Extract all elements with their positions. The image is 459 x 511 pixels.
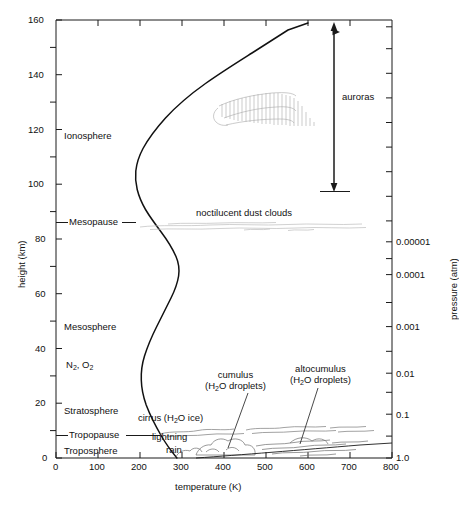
pressure-axis-major-ticks <box>386 242 392 458</box>
y-tick-100: 100 <box>28 178 44 189</box>
layer-label-tropopause: Tropopause <box>69 430 119 441</box>
x-tick-300: 300 <box>173 461 189 472</box>
noctilucent-dust-clouds-label: noctilucent dust clouds <box>196 208 292 219</box>
rain-label: rain <box>166 445 182 456</box>
y-tick-120: 120 <box>28 124 44 135</box>
altocumulus-cloud-sketch <box>256 438 368 456</box>
pressure-axis-minor-ticks <box>386 27 392 436</box>
temperature-profile-curve <box>136 23 308 458</box>
pressure-tick-1e-5: 0.00001 <box>396 236 430 247</box>
layer-label-troposphere: Troposphere <box>64 446 118 457</box>
lightning-label: lightning <box>152 432 187 443</box>
layer-label-mesopause: Mesopause <box>69 217 118 228</box>
x-tick-200: 200 <box>131 461 147 472</box>
x-tick-0: 0 <box>53 461 58 472</box>
y-tick-20: 20 <box>35 397 46 408</box>
surface-line <box>196 443 392 458</box>
x-tick-100: 100 <box>89 461 105 472</box>
y-axis-minor-ticks <box>50 47 56 430</box>
layer-label-gases: N2, O2 <box>66 360 93 371</box>
x-axis-title: temperature (K) <box>175 482 242 493</box>
x-tick-700: 700 <box>341 461 357 472</box>
top-axis-ticks <box>98 20 350 26</box>
pressure-tick-1e-4: 0.0001 <box>396 269 425 280</box>
x-tick-500: 500 <box>257 461 273 472</box>
layer-label-ionosphere: Ionosphere <box>64 131 112 142</box>
pressure-tick-1e-3: 0.001 <box>396 321 420 332</box>
pressure-tick-1e-2: 0.01 <box>396 368 415 379</box>
y-tick-40: 40 <box>35 343 46 354</box>
auroras-label: auroras <box>342 92 374 103</box>
y-tick-160: 160 <box>28 14 44 25</box>
auroras-arrow <box>320 22 350 192</box>
cumulus-label: cumulus (H2O droplets) <box>205 370 266 392</box>
x-tick-600: 600 <box>299 461 315 472</box>
cirrus-cloud-sketch <box>160 427 374 438</box>
y-axis-major-ticks <box>56 20 62 458</box>
y-tick-80: 80 <box>35 233 46 244</box>
cloud-label-leaders <box>228 388 318 448</box>
altocumulus-label: altocumulus (H2O droplets) <box>290 364 351 386</box>
cirrus-label: cirrus (H2O ice) <box>138 413 203 424</box>
noctilucent-cloud-band <box>140 223 366 231</box>
layer-label-mesosphere: Mesosphere <box>64 322 116 333</box>
pressure-axis-title: pressure (atm) <box>448 258 459 320</box>
y-tick-60: 60 <box>35 288 46 299</box>
y-tick-140: 140 <box>28 69 44 80</box>
y-tick-0: 0 <box>42 452 47 463</box>
layer-label-stratosphere: Stratosphere <box>64 406 118 417</box>
plot-frame <box>56 20 392 458</box>
x-tick-400: 400 <box>215 461 231 472</box>
aurora-curtain-sketch <box>214 93 314 126</box>
y-axis-title: height (km) <box>16 240 27 288</box>
pressure-tick-1e-1: 0.1 <box>396 409 409 420</box>
pressure-tick-1: 1.0 <box>396 452 409 463</box>
